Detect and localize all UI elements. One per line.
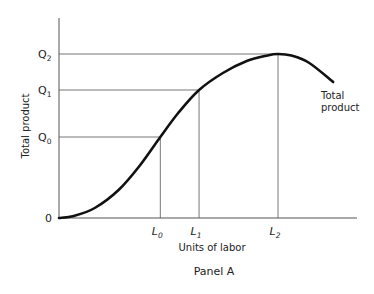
series-label-total: Total (320, 90, 344, 101)
x-axis-label: Units of labor (178, 242, 246, 253)
total-product-curve (59, 54, 333, 218)
y-tick-q2: Q2 (38, 48, 52, 63)
panel-caption: Panel A (194, 265, 235, 278)
y-tick-labels: Q0Q1Q2 (38, 48, 52, 146)
origin-label: 0 (45, 212, 52, 225)
y-axis-label: Total product (20, 93, 31, 159)
x-tick-l0: L0 (152, 225, 163, 240)
total-product-chart: Q0Q1Q2 L0L1L2 0 Total product Total prod… (0, 0, 374, 294)
x-tick-labels: L0L1L2 (152, 225, 281, 240)
guide-lines (59, 54, 278, 218)
y-tick-q0: Q0 (38, 131, 52, 146)
x-tick-l1: L1 (191, 225, 202, 240)
x-tick-l2: L2 (270, 225, 281, 240)
series-label-product: product (321, 102, 360, 113)
y-tick-q1: Q1 (38, 84, 52, 99)
